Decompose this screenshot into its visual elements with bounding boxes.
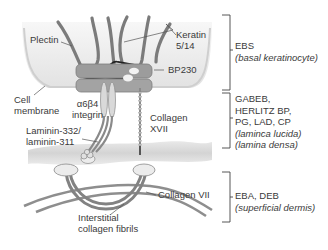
zone-disease: EBA, DEB — [235, 190, 315, 202]
label-collagen-xvii-line1: Collagen — [150, 112, 188, 123]
zone-superficial-dermis: EBA, DEB (superficial dermis) — [235, 190, 315, 213]
label-keratin: Keratin 5/14 — [176, 29, 206, 51]
zone-layer: (lamina densa) — [235, 139, 302, 151]
label-laminin-line1: Laminin-332/ — [26, 125, 81, 136]
label-cell-membrane-line2: membrane — [14, 105, 59, 116]
zone-lamina: GABEB, HERLITZ BP, PG, LAD, CP (laminca … — [235, 93, 302, 151]
label-cell-membrane-line1: Cell — [14, 94, 30, 105]
label-collagen-xvii: Collagen XVII — [150, 112, 188, 134]
zone-layer: (basal keratinocyte) — [235, 52, 318, 64]
label-keratin-line1: Keratin — [176, 29, 206, 40]
label-keratin-line2: 5/14 — [176, 40, 195, 51]
label-integrin-line1: α6β4 — [77, 98, 99, 109]
zone-layer: (superficial dermis) — [235, 202, 315, 214]
label-fibrils-line1: Interstitial — [78, 212, 119, 223]
label-plectin: Plectin — [30, 34, 59, 45]
label-cell-membrane: Cell membrane — [14, 94, 59, 116]
label-interstitial-fibrils: Interstitial collagen fibrils — [78, 212, 138, 234]
label-collagen-vii: Collagen VII — [158, 189, 210, 200]
zone-disease: GABEB, — [235, 93, 302, 105]
label-collagen-xvii-line2: XVII — [150, 123, 168, 134]
label-laminin-line2: laminin-311 — [26, 136, 74, 147]
label-laminin: Laminin-332/ laminin-311 — [26, 125, 81, 147]
zone-disease: PG, LAD, CP — [235, 116, 302, 128]
label-integrin: α6β4 integrin — [72, 98, 103, 120]
label-bp230: BP230 — [168, 64, 197, 75]
zone-layer: (laminca lucida) — [235, 128, 302, 140]
label-integrin-line2: integrin — [72, 109, 103, 120]
zone-disease: HERLITZ BP, — [235, 105, 302, 117]
label-fibrils-line2: collagen fibrils — [78, 223, 138, 234]
anchoring-plaques — [54, 164, 155, 176]
collagen-vii — [66, 172, 146, 209]
zone-basal-keratinocyte: EBS (basal keratinocyte) — [235, 40, 318, 63]
zone-brackets — [222, 15, 233, 222]
zone-disease: EBS — [235, 40, 318, 52]
